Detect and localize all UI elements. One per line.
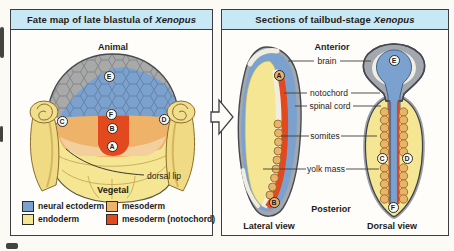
scan-artifact: [0, 27, 4, 58]
panel-title-right: Sections of tailbud-stage Xenopus: [222, 10, 448, 30]
somites-label: somites: [310, 131, 339, 141]
marker-A-blastula: A: [107, 141, 118, 152]
marker-F-dorsal: F: [388, 202, 399, 213]
marker-C-dorsal: C: [377, 153, 388, 164]
legend-item-neural-ectoderm: neural ectoderm: [22, 201, 104, 212]
marker-B-lateral: B: [269, 197, 280, 208]
spinal-cord-label: spinal cord: [309, 101, 350, 111]
marker-E-dorsal: E: [389, 55, 400, 66]
panel-title-right-species: Xenopus: [374, 14, 415, 25]
yolk-mass-label: yolk mass: [307, 164, 345, 174]
marker-D-dorsal: D: [402, 153, 413, 164]
scan-artifact: [6, 243, 18, 249]
marker-C-blastula: C: [57, 116, 68, 127]
anterior-label: Anterior: [314, 42, 349, 52]
notochord-label: notochord: [310, 88, 348, 98]
posterior-label: Posterior: [311, 204, 351, 214]
legend-item-endoderm: endoderm: [22, 214, 79, 225]
scan-artifact: [0, 126, 3, 142]
panel-title-left-text: Fate map of late blastula of: [27, 14, 152, 25]
legend-swatch-neural-ectoderm: [22, 201, 34, 212]
lateral-view-caption: Lateral view: [243, 221, 295, 231]
legend-swatch-endoderm: [22, 214, 34, 225]
legend-item-mesoderm-notochord: mesoderm (notochord): [106, 214, 215, 225]
dorsal-lip-label: dorsal lip: [147, 171, 181, 181]
animal-pole-label: Animal: [98, 42, 128, 52]
panel-title-right-text: Sections of tailbud-stage: [255, 14, 370, 25]
brain-label: brain: [318, 56, 337, 66]
dorsal-view-caption: Dorsal view: [367, 221, 417, 231]
fate-map-figure: Fate map of late blastula of Xenopus Sec…: [0, 0, 454, 251]
marker-F-blastula: F: [106, 109, 117, 120]
panel-title-left-species: Xenopus: [155, 14, 196, 25]
panel-title-left: Fate map of late blastula of Xenopus: [11, 10, 212, 30]
legend-swatch-mesoderm-notochord: [106, 214, 118, 225]
marker-B-blastula: B: [107, 123, 118, 134]
marker-A-lateral: A: [274, 70, 285, 81]
legend-swatch-mesoderm: [106, 201, 118, 212]
legend-item-mesoderm: mesoderm: [106, 201, 165, 212]
marker-D-blastula: D: [159, 114, 170, 125]
marker-E-blastula: E: [104, 71, 115, 82]
vegetal-pole-label: Vegetal: [97, 185, 129, 195]
